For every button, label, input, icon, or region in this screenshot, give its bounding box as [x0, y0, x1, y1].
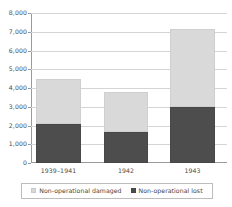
- legend-label-non-operational-lost: Non-operational lost: [139, 188, 203, 194]
- legend-swatch-icon-lost: [131, 188, 136, 193]
- legend-swatch-icon-damaged: [31, 188, 36, 193]
- bar-segment-non-operational-lost[interactable]: [36, 124, 81, 163]
- ytick-8000: [28, 13, 31, 14]
- bar-group-1942[interactable]: 1942: [104, 92, 148, 163]
- xtick-label-1942: 1942: [90, 168, 162, 174]
- bar-segment-non-operational-lost[interactable]: [170, 107, 215, 163]
- ytick-1000: [28, 144, 31, 145]
- chart-legend: Non-operational damaged Non-operational …: [21, 183, 213, 199]
- ytick-label-5000: 5,000: [9, 66, 27, 72]
- bar-segment-non-operational-lost[interactable]: [104, 132, 148, 163]
- bar-segment-non-operational-damaged[interactable]: [36, 79, 81, 124]
- bar-group-1939-1941[interactable]: 1939–1941: [36, 79, 81, 163]
- ytick-label-2000: 2,000: [9, 122, 27, 128]
- legend-item-non-operational-lost[interactable]: Non-operational lost: [131, 188, 203, 194]
- ytick-label-4000: 4,000: [9, 85, 27, 91]
- plot-area: 8,000 7,000 6,000 5,000 4,000 3,000 2,00…: [31, 13, 227, 163]
- ytick-3000: [28, 107, 31, 108]
- ytick-label-3000: 3,000: [9, 104, 27, 110]
- legend-label-non-operational-damaged: Non-operational damaged: [39, 188, 121, 194]
- ytick-label-6000: 6,000: [9, 47, 27, 53]
- ytick-4000: [28, 88, 31, 89]
- legend-item-non-operational-damaged[interactable]: Non-operational damaged: [31, 188, 121, 194]
- bar-segment-non-operational-damaged[interactable]: [104, 92, 148, 132]
- bar-segment-non-operational-damaged[interactable]: [170, 29, 215, 107]
- stacked-bar-chart: 8,000 7,000 6,000 5,000 4,000 3,000 2,00…: [0, 0, 232, 207]
- gridline-8000: [31, 13, 227, 14]
- ytick-label-7000: 7,000: [9, 29, 27, 35]
- xtick-label-1943: 1943: [156, 168, 229, 174]
- ytick-label-1000: 1,000: [9, 141, 27, 147]
- ytick-6000: [28, 51, 31, 52]
- bar-group-1943[interactable]: 1943: [170, 29, 215, 163]
- ytick-label-0: 0: [23, 160, 27, 166]
- ytick-5000: [28, 69, 31, 70]
- ytick-label-8000: 8,000: [9, 10, 27, 16]
- ytick-0: [28, 163, 31, 164]
- xtick-label-1939-1941: 1939–1941: [22, 168, 95, 174]
- ytick-7000: [28, 32, 31, 33]
- ytick-2000: [28, 126, 31, 127]
